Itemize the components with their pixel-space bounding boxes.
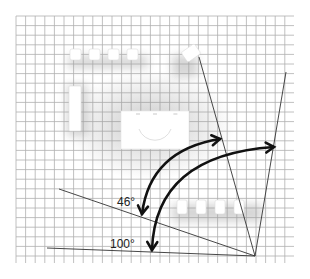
table	[121, 111, 189, 149]
chair-top	[70, 49, 81, 60]
line-upper-right	[255, 72, 286, 256]
chair-bottom	[196, 200, 206, 214]
floor-plan-diagram: 46°100°	[0, 0, 310, 279]
chair-top	[108, 49, 119, 60]
chair-bottom	[177, 200, 187, 214]
angle-46-label: 46°	[117, 195, 135, 209]
chair-top	[89, 49, 100, 60]
bench-left	[69, 86, 81, 131]
angle-100-label: 100°	[110, 237, 135, 251]
chair-bottom	[215, 200, 225, 214]
chair-top	[127, 49, 138, 60]
